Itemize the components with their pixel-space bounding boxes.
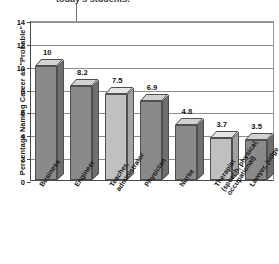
bar-value-label: 8.2 — [77, 68, 88, 77]
bar-value-label: 6.9 — [147, 83, 158, 92]
y-axis-tick-label: 14 — [17, 18, 25, 27]
y-axis-tick-label: 2 — [21, 155, 25, 164]
y-axis-tick-label: 6 — [21, 109, 25, 118]
y-axis-tick-label: 8 — [21, 86, 25, 95]
chart-caption: today's students. — [56, 0, 236, 5]
y-axis-tick-label: 12 — [17, 40, 25, 49]
y-axis-tick — [27, 182, 31, 183]
bar-value-label: 4.8 — [182, 107, 193, 116]
bar-value-label: 7.5 — [112, 76, 123, 85]
y-axis-tick-label: 10 — [17, 63, 25, 72]
bar-value-label: 10 — [43, 48, 51, 57]
bar-value-label: 3.5 — [251, 122, 262, 131]
y-axis-tick-label: 0 — [21, 178, 25, 187]
y-axis-tick-label: 4 — [21, 132, 25, 141]
bar-value-label: 3.7 — [216, 120, 227, 129]
bar-chart: today's students. Percentage Naming Care… — [0, 0, 279, 264]
bar-side-face — [197, 119, 204, 180]
